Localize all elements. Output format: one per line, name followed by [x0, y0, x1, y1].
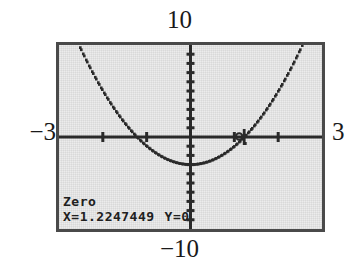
window-ymin-label: −10	[0, 236, 359, 261]
readout-y-value: Y=0	[165, 209, 190, 224]
window-xmax-label: 3	[332, 119, 356, 144]
calculator-graph-screen[interactable]: Zero X=1.2247449Y=0	[56, 42, 325, 232]
window-xmin-label: −3	[10, 119, 56, 144]
readout-mode-label: Zero	[63, 194, 190, 209]
window-ymax-label: 10	[0, 7, 359, 32]
zero-readout: Zero X=1.2247449Y=0	[63, 194, 190, 224]
readout-values-row: X=1.2247449Y=0	[63, 209, 190, 224]
calculator-screenshot: 10 −3 3 −10 Zero X=1.2247449Y=0	[0, 0, 359, 273]
readout-x-value: X=1.2247449	[63, 209, 155, 224]
